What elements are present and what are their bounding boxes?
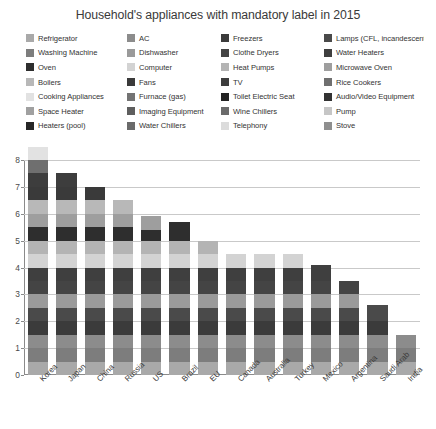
bar-segment <box>283 308 303 321</box>
bar-segment <box>339 321 359 334</box>
bar-segment <box>141 348 161 361</box>
bar-segment <box>226 321 246 334</box>
bar-segment <box>113 254 133 267</box>
bar-segment <box>311 294 331 307</box>
legend-label: Dishwasher <box>139 48 178 57</box>
bar-segment <box>56 200 76 213</box>
legend-item: Clothe Dryers <box>221 48 324 57</box>
legend-swatch-icon <box>127 93 135 101</box>
bar-stack <box>339 281 359 375</box>
legend-swatch-icon <box>221 63 229 71</box>
legend-item: Computer <box>127 63 221 72</box>
bar-segment <box>56 254 76 267</box>
legend-label: Microwave Oven <box>336 63 392 72</box>
bar-segment <box>113 348 133 361</box>
legend-label: Heat Pumps <box>233 63 274 72</box>
bar-segment <box>85 268 105 281</box>
legend-item: Refrigerator <box>26 34 127 43</box>
legend-swatch-icon <box>26 93 34 101</box>
bar-segment <box>169 241 189 254</box>
bar-segment <box>85 321 105 334</box>
legend-label: Lamps (CFL, incandescent) <box>336 34 424 43</box>
legend-item: AC <box>127 34 221 43</box>
bar-segment <box>339 281 359 294</box>
bar-segment <box>85 187 105 200</box>
bar-segment <box>169 294 189 307</box>
bar-segment <box>28 321 48 334</box>
bar-segment <box>28 254 48 267</box>
y-axis-tick-label: 4 <box>15 263 20 273</box>
legend-item: Pump <box>324 107 424 116</box>
legend-label: Oven <box>38 63 56 72</box>
bar-segment <box>85 214 105 227</box>
bar-segment <box>339 348 359 361</box>
bar-segment <box>226 294 246 307</box>
legend-swatch-icon <box>221 122 229 130</box>
bar-segment <box>56 335 76 348</box>
y-axis-tick-label: 6 <box>15 209 20 219</box>
bar-segment <box>28 241 48 254</box>
legend-label: Refrigerator <box>38 34 78 43</box>
bar-segment <box>56 173 76 186</box>
legend-swatch-icon <box>26 34 34 42</box>
bar-segment <box>198 241 218 254</box>
bar-segment <box>28 308 48 321</box>
bar-segment <box>28 214 48 227</box>
bar-segment <box>339 294 359 307</box>
bar-segment <box>141 230 161 241</box>
bar-segment <box>226 254 246 267</box>
legend-label: Imaging Equipment <box>139 107 204 116</box>
bar-segment <box>311 308 331 321</box>
legend-swatch-icon <box>221 49 229 57</box>
bar-segment <box>226 268 246 281</box>
legend-swatch-icon <box>324 49 332 57</box>
bar-segment <box>254 308 274 321</box>
bar-segment <box>198 268 218 281</box>
bar-segment <box>226 308 246 321</box>
bar-segment <box>141 268 161 281</box>
bar-stack <box>254 254 274 375</box>
legend-label: Space Heater <box>38 107 84 116</box>
bar-stack <box>85 187 105 375</box>
bar-segment <box>169 321 189 334</box>
legend-item: Furnace (gas) <box>127 92 221 101</box>
bar-segment <box>113 268 133 281</box>
bar-segment <box>56 268 76 281</box>
bar-segment <box>169 268 189 281</box>
bar-segment <box>28 268 48 281</box>
bar-segment <box>56 281 76 294</box>
legend-item: Toilet Electric Seat <box>221 92 324 101</box>
bar-segment <box>56 348 76 361</box>
legend-label: Pump <box>336 107 356 116</box>
bar-segment <box>311 281 331 294</box>
legend-item: Cooking Appliances <box>26 92 127 101</box>
legend-label: Heaters (pool) <box>38 121 85 130</box>
bar-segment <box>56 241 76 254</box>
legend-label: Toilet Electric Seat <box>233 92 294 101</box>
y-axis-tick-label: 2 <box>15 316 20 326</box>
bar-segment <box>113 335 133 348</box>
bar-segment <box>367 305 387 321</box>
y-axis-tick-mark <box>21 375 24 376</box>
chart-title: Household's appliances with mandatory la… <box>0 8 436 22</box>
bar-segment <box>198 348 218 361</box>
bar-segment <box>169 308 189 321</box>
plot-area: 012345678 <box>24 160 420 375</box>
legend-label: Cooking Appliances <box>38 92 104 101</box>
legend-item: Water Chillers <box>127 121 221 130</box>
legend-swatch-icon <box>324 63 332 71</box>
bar-segment <box>254 281 274 294</box>
bar-segment <box>226 335 246 348</box>
bar-segment <box>198 335 218 348</box>
bar-segment <box>141 335 161 348</box>
bar-segment <box>85 241 105 254</box>
legend-swatch-icon <box>127 34 135 42</box>
bar-segment <box>113 200 133 213</box>
bar-segment <box>28 227 48 240</box>
bar-segment <box>141 294 161 307</box>
bar-segment <box>396 335 416 348</box>
bar-segment <box>311 335 331 348</box>
legend-label: Wine Chillers <box>233 107 277 116</box>
legend-label: Audio/Video Equipment <box>336 92 414 101</box>
bar-segment <box>28 187 48 200</box>
